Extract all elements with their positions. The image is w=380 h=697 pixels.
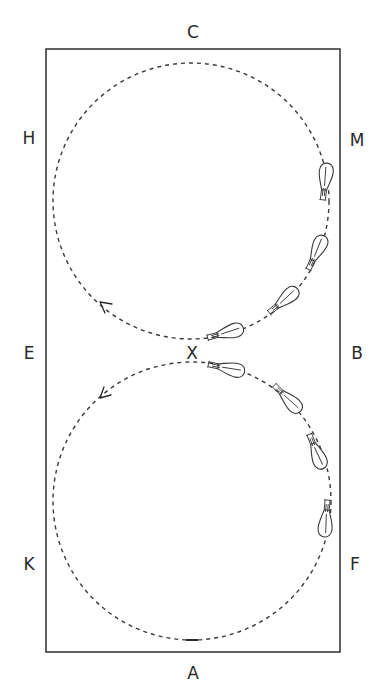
marker-m: M	[350, 130, 365, 150]
marker-h: H	[23, 128, 36, 148]
marker-f: F	[350, 554, 360, 574]
marker-k: K	[23, 554, 35, 574]
lower-horse-1-icon	[207, 357, 246, 378]
marker-c: C	[187, 22, 199, 42]
marker-e: E	[24, 343, 35, 363]
horses	[206, 162, 335, 537]
marker-b: B	[351, 343, 363, 363]
marker-a: A	[187, 663, 199, 683]
upper-horse-1-icon	[206, 321, 245, 344]
lower-horse-3-icon	[303, 432, 330, 472]
marker-x: X	[186, 343, 198, 363]
arena-markers: C H M E X B K F A	[23, 22, 365, 683]
upper-horse-2-icon	[265, 283, 302, 318]
lower-horse-4-icon	[317, 499, 334, 537]
upper-circle-direction-arrow-icon	[100, 302, 112, 313]
upper-horse-4-icon	[316, 162, 334, 200]
lower-horse-2-icon	[269, 380, 305, 416]
upper-horse-3-icon	[302, 233, 330, 272]
dressage-arena-diagram: C H M E X B K F A	[0, 0, 380, 697]
